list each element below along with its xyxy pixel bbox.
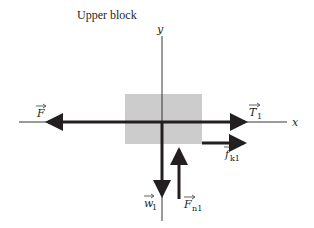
svg-text:1: 1 <box>152 203 157 212</box>
x-axis-label: x <box>292 116 299 129</box>
y-axis-label: y <box>156 23 164 36</box>
svg-text:F: F <box>36 107 45 120</box>
force-Fn1-label: F n1 <box>183 195 202 213</box>
force-fk1-label: f k1 <box>224 145 240 163</box>
svg-text:k1: k1 <box>230 154 240 163</box>
force-T1-label: T 1 <box>249 103 262 121</box>
free-body-diagram: x y F T 1 f k1 w 1 F n1 <box>0 0 314 228</box>
force-F-label: F <box>36 104 46 120</box>
force-w1-label: w 1 <box>144 194 157 212</box>
svg-text:F: F <box>183 198 192 211</box>
svg-text:n1: n1 <box>192 204 202 213</box>
svg-text:1: 1 <box>257 112 262 121</box>
